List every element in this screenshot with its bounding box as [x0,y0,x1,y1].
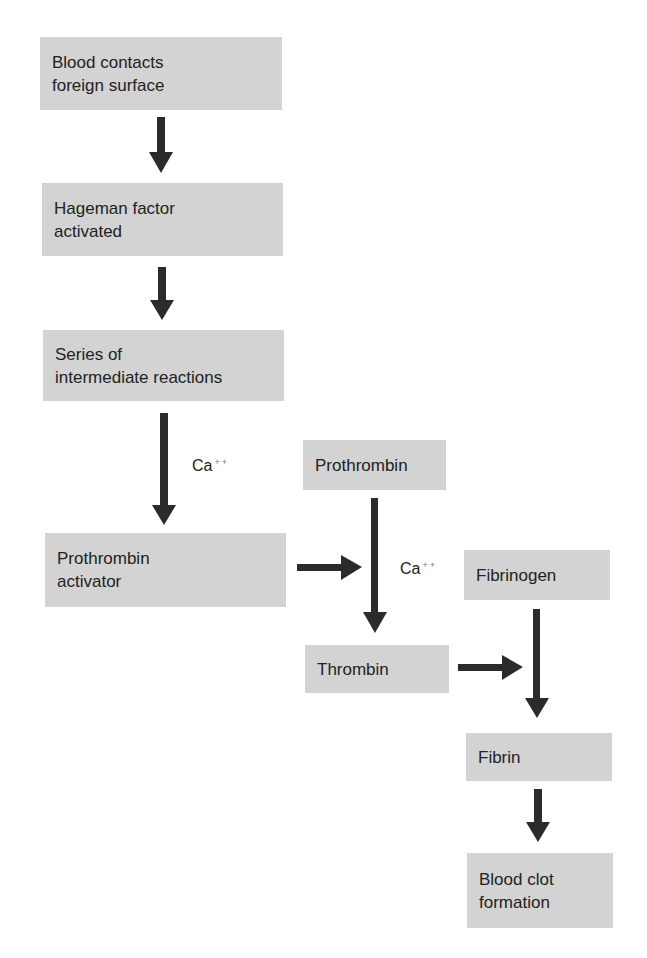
arrow-down-icon [363,498,387,633]
arrow-down-icon [526,789,550,842]
arrow-down-icon [149,117,173,173]
arrow-right-icon [297,555,362,580]
arrow-down-icon [152,413,176,525]
arrow-down-icon [525,609,549,718]
arrow-down-icon [150,267,174,320]
arrow-right-icon [458,655,523,680]
arrows-layer [0,0,647,958]
